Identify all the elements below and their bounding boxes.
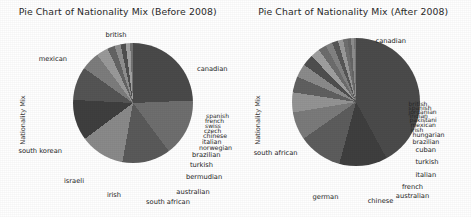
left-chart-title: Pie Chart of Nationality Mix (Before 200…	[0, 6, 236, 17]
right-label-french: french	[402, 184, 423, 191]
right-label-australian: australian	[396, 193, 429, 200]
right-label-canadian: canadian	[376, 38, 407, 45]
left-label-turkish: turkish	[190, 162, 213, 169]
left-label-south-african: south african	[146, 199, 190, 206]
right-pie-wrap	[292, 38, 420, 166]
left-label-irish: irish	[107, 192, 121, 199]
left-pie-wrap	[73, 43, 193, 163]
right-label-south-african: south african	[254, 150, 298, 157]
left-label-canadian: canadian	[197, 66, 228, 73]
right-label-brazilian: brazilian	[413, 138, 440, 145]
left-label-bermudian: bermudian	[186, 174, 222, 181]
pie-chart-figure: Pie Chart of Nationality Mix (Before 200…	[0, 0, 471, 217]
right-label-chinese: chinese	[368, 198, 394, 205]
right-axis-label: Nationality Mix	[254, 90, 262, 150]
left-pie	[73, 43, 193, 163]
left-label-south-korean: south korean	[18, 148, 62, 155]
left-label-british: british	[105, 32, 126, 39]
right-pie	[292, 38, 420, 166]
right-label-german: german	[313, 194, 339, 201]
left-label-brazilian: brazilian	[192, 152, 221, 159]
right-label-turkish: turkish	[416, 159, 439, 166]
left-axis-label: Nationality Mix	[19, 90, 27, 150]
left-label-spanish: spanish	[206, 112, 229, 119]
right-label-british: british	[409, 100, 428, 107]
right-label-italian: italian	[416, 172, 437, 179]
right-chart-title: Pie Chart of Nationality Mix (After 2008…	[236, 6, 471, 17]
left-label-australian: australian	[176, 189, 209, 196]
left-label-mexican: mexican	[39, 56, 67, 63]
right-label-cuban: cuban	[416, 147, 437, 154]
left-label-israeli: israeli	[64, 178, 84, 185]
panel-after-2008: Pie Chart of Nationality Mix (After 2008…	[236, 0, 471, 217]
panel-before-2008: Pie Chart of Nationality Mix (Before 200…	[0, 0, 236, 217]
